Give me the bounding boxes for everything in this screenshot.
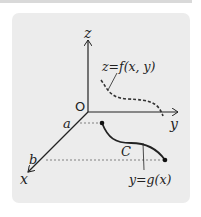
curve-c (102, 123, 165, 160)
x-axis-label: x (20, 171, 28, 187)
surface-label: z=f(x, y) (101, 59, 156, 74)
3d-axes-diagram: z y x O a b z=f(x, y) C y=g(x) (0, 0, 201, 217)
z-axis-label: z (83, 25, 92, 41)
origin-label: O (75, 99, 85, 114)
tick-a-label: a (63, 116, 71, 131)
curve-end-point (163, 158, 168, 163)
curve-start-point (100, 121, 105, 126)
projection-leader (143, 143, 144, 170)
projection-label: y=g(x) (128, 172, 171, 187)
surface-leader (108, 73, 117, 90)
y-axis-label: y (169, 116, 179, 132)
tick-b-label: b (29, 152, 37, 167)
curve-label: C (121, 144, 131, 159)
